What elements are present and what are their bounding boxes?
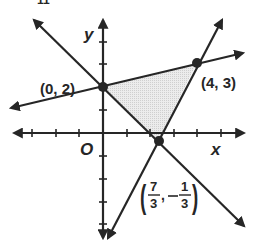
vertex-label-4-3: (4, 3) (201, 74, 236, 91)
vertex-point-0-2 (98, 82, 108, 92)
vertex-label-0-2: (0, 2) (40, 80, 75, 97)
fraction-numerator-1: 1 (181, 179, 188, 194)
coordinate-graph: 11 y x O (0, 2) (4, 3) ( 7 (0, 0, 263, 251)
open-paren: ( (140, 177, 147, 215)
boundary-line-slope-negative-one (34, 20, 244, 226)
comma: , (161, 187, 165, 203)
cropped-text-fragment: 11 (37, 0, 50, 7)
close-paren: ) (192, 177, 198, 215)
y-axis-label: y (83, 25, 95, 44)
boundary-line-slope-two (108, 20, 222, 238)
x-axis-label: x (210, 140, 222, 159)
vertex-label-7-3-neg-1-3: ( 7 3 , 1 3 ) (140, 177, 198, 215)
vertex-point-7-3-neg-1-3 (154, 136, 164, 146)
fraction-denominator-3: 3 (181, 196, 188, 211)
origin-label: O (80, 140, 93, 159)
fraction-numerator-7: 7 (150, 179, 157, 194)
vertex-point-4-3 (192, 58, 202, 68)
fraction-denominator-3: 3 (150, 196, 157, 211)
